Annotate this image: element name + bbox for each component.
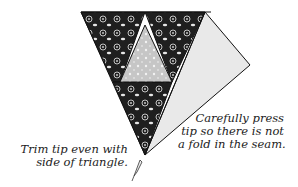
press-tip-note-line3: a fold in the seam. <box>178 138 284 151</box>
scissors-cut-icon <box>132 160 142 181</box>
trim-tip-note: Trim tip even with side of triangle. <box>18 143 128 169</box>
press-tip-note: Carefully press tip so there is not a fo… <box>178 112 284 151</box>
diagram-canvas: Carefully press tip so there is not a fo… <box>0 0 298 187</box>
trim-tip-note-line2: side of triangle. <box>18 156 128 169</box>
